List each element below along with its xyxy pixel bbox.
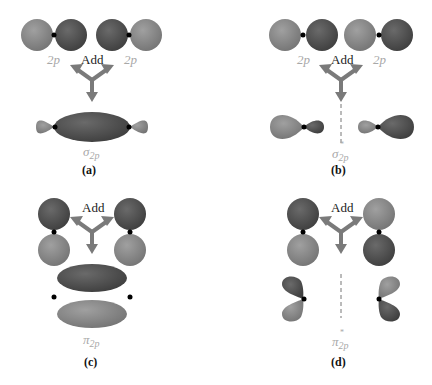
nucleus-dot xyxy=(302,125,307,130)
antibonding-lobe xyxy=(270,115,304,139)
sigma-bonding-orbital xyxy=(54,112,130,142)
orbital-subscript: 2p xyxy=(90,338,100,349)
panel-caption: (c) xyxy=(84,355,97,370)
panel-a xyxy=(21,19,162,142)
p-lobe-light xyxy=(344,19,376,51)
add-label: Add xyxy=(331,52,353,68)
pi-antibonding-lobe xyxy=(282,299,303,322)
antibonding-lobe xyxy=(378,115,414,139)
panel-caption: (d) xyxy=(331,355,346,370)
add-label: Add xyxy=(82,200,104,216)
combine-arrow-icon xyxy=(70,64,114,102)
nucleus-dot xyxy=(52,33,57,38)
orbital-superscript: * xyxy=(340,140,344,149)
nucleus-dot xyxy=(376,125,381,130)
result-orbital-label: π2p xyxy=(83,332,100,349)
pi-bonding-lobe-bottom xyxy=(57,300,127,328)
panel-caption: (b) xyxy=(331,163,346,178)
nucleus-dot xyxy=(127,125,132,130)
panel-c xyxy=(38,198,146,328)
p-lobe-light xyxy=(269,19,301,51)
p-lobe-dark xyxy=(55,19,87,51)
add-label: Add xyxy=(81,52,103,68)
panel-d xyxy=(282,198,400,322)
pi-antibonding-lobe xyxy=(282,276,303,299)
p-lobe-dark xyxy=(381,19,413,51)
panel-b xyxy=(269,19,414,145)
orbital-label-left: 2p xyxy=(47,52,60,68)
nucleus-dot xyxy=(53,125,58,130)
sigma-minor-lobe xyxy=(130,121,148,134)
p-lobe-light xyxy=(363,198,395,230)
p-lobe-light xyxy=(114,234,146,266)
p-lobe-dark xyxy=(96,19,128,51)
nucleus-dot xyxy=(301,230,306,235)
combine-arrow-icon xyxy=(319,64,363,102)
panel-caption: (a) xyxy=(82,163,96,178)
nucleus-dot xyxy=(127,33,132,38)
p-lobe-light xyxy=(38,234,70,266)
orbital-subscript: 2p xyxy=(89,150,99,161)
result-orbital-label: π*2p xyxy=(332,334,349,351)
p-lobe-light xyxy=(287,234,319,266)
pi-antibonding-lobe xyxy=(379,276,400,299)
orbital-subscript: 2p xyxy=(339,340,349,351)
pi-antibonding-lobe xyxy=(379,299,400,322)
orbital-label-right: 2p xyxy=(373,52,386,68)
orbital-superscript: * xyxy=(340,328,344,337)
nucleus-dot xyxy=(302,297,307,302)
sigma-minor-lobe xyxy=(36,121,54,134)
nucleus-dot xyxy=(52,230,57,235)
antibonding-lobe xyxy=(358,121,378,134)
pi-bonding-lobe-top xyxy=(57,264,127,292)
result-orbital-label: σ2p xyxy=(83,144,99,161)
p-lobe-dark xyxy=(38,198,70,230)
nucleus-dot xyxy=(52,295,57,300)
p-lobe-light xyxy=(21,19,53,51)
result-orbital-label: σ*2p xyxy=(332,146,348,163)
p-lobe-dark xyxy=(287,198,319,230)
combine-arrow-icon xyxy=(319,216,363,254)
nucleus-dot xyxy=(128,295,133,300)
p-lobe-light xyxy=(130,19,162,51)
nucleus-dot xyxy=(377,230,382,235)
p-lobe-dark xyxy=(363,234,395,266)
add-label: Add xyxy=(331,200,353,216)
orbital-label-right: 2p xyxy=(124,52,137,68)
orbital-label-left: 2p xyxy=(297,52,310,68)
antibonding-lobe xyxy=(304,121,324,134)
p-lobe-dark xyxy=(306,19,338,51)
nucleus-dot xyxy=(128,230,133,235)
nucleus-dot xyxy=(377,33,382,38)
nucleus-dot xyxy=(377,297,382,302)
orbital-subscript: 2p xyxy=(338,152,348,163)
nucleus-dot xyxy=(301,33,306,38)
p-lobe-dark xyxy=(114,198,146,230)
combine-arrow-icon xyxy=(70,216,114,254)
orbital-diagram xyxy=(0,0,432,385)
